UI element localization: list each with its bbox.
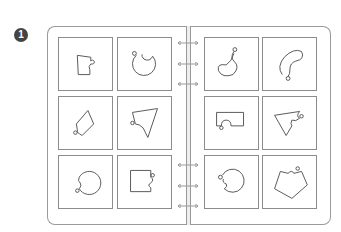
triangle-notch-icon (263, 97, 316, 149)
shape-card-bean-blob[interactable] (204, 37, 259, 91)
shape-card-square-notch[interactable] (117, 155, 172, 209)
binder-ring-icon (177, 204, 199, 208)
shape-card-circle-notch-2[interactable] (58, 155, 113, 209)
triangle-notch-icon (118, 97, 171, 149)
binder-ring-icon (177, 82, 199, 86)
pentagon-notch-icon (263, 156, 316, 208)
shape-card-rectangle-notch-2[interactable] (204, 96, 259, 150)
curved-blob-icon (263, 38, 316, 90)
shape-card-tilted-rectangle-notch[interactable] (58, 96, 113, 150)
shape-card-curved-blob[interactable] (262, 37, 317, 91)
circle-notch-icon (205, 156, 258, 208)
rectangle-notch-icon (205, 97, 258, 149)
circle-notch-icon (118, 38, 171, 90)
binder-ring-icon (177, 163, 199, 167)
circle-notch-icon (59, 156, 112, 208)
binder-ring-icon (177, 184, 199, 188)
tilted-rectangle-notch-icon (59, 97, 112, 149)
bean-blob-icon (205, 38, 258, 90)
shape-card-pentagon-notch[interactable] (262, 155, 317, 209)
binder-ring-icon (177, 41, 199, 45)
shape-card-rectangle-notch[interactable] (58, 37, 113, 91)
shape-card-circle-notch-3[interactable] (204, 155, 259, 209)
shape-card-triangle-notch-2[interactable] (262, 96, 317, 150)
binder-spine (186, 26, 191, 225)
binder-ring-icon (177, 62, 199, 66)
rectangle-notch-icon (59, 38, 112, 90)
exercise-number-badge: 1 (14, 28, 28, 42)
square-notch-icon (118, 156, 171, 208)
shape-card-circle-notch[interactable] (117, 37, 172, 91)
shape-card-triangle-notch[interactable] (117, 96, 172, 150)
cropped-header-text (0, 0, 341, 6)
